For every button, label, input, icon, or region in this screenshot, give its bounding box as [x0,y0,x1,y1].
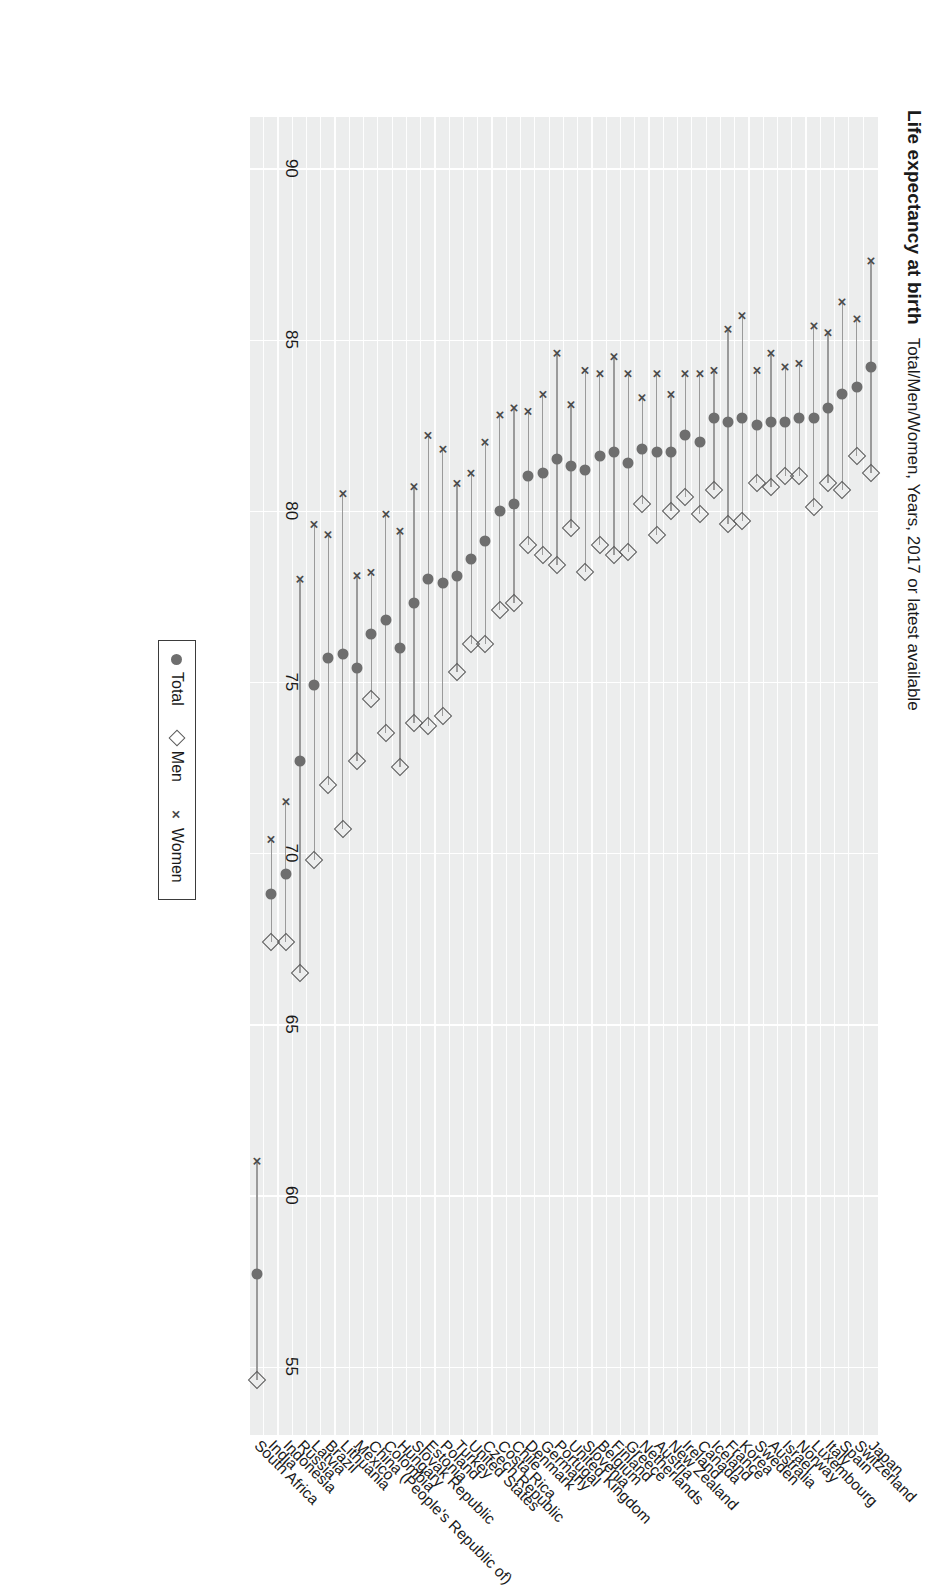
data-point-women[interactable]: × [308,518,321,531]
data-point-total[interactable] [509,498,520,509]
data-point-women[interactable]: × [408,480,421,493]
data-point-total[interactable] [537,468,548,479]
row-separator [349,117,350,1435]
gridline [250,682,878,683]
data-point-women[interactable]: × [293,573,306,586]
data-point-total[interactable] [680,430,691,441]
data-point-women[interactable]: × [565,398,578,411]
data-point-women[interactable]: × [607,350,620,363]
data-point-total[interactable] [666,447,677,458]
data-point-total[interactable] [623,457,634,468]
data-point-women[interactable]: × [593,367,606,380]
data-point-women[interactable]: × [251,1155,264,1168]
data-point-women[interactable]: × [465,467,478,480]
legend-item-women[interactable]: × Women [168,808,186,883]
data-point-women[interactable]: × [650,367,663,380]
data-point-women[interactable]: × [764,347,777,360]
data-point-total[interactable] [566,461,577,472]
data-point-women[interactable]: × [279,795,292,808]
data-point-women[interactable]: × [636,391,649,404]
data-point-women[interactable]: × [379,508,392,521]
data-point-total[interactable] [437,577,448,588]
data-point-total[interactable] [594,450,605,461]
data-point-women[interactable]: × [864,254,877,267]
data-point-women[interactable]: × [536,388,549,401]
axis-tick-label: 85 [281,330,301,349]
data-point-women[interactable]: × [679,367,692,380]
data-point-total[interactable] [480,536,491,547]
data-point-total[interactable] [694,437,705,448]
data-point-women[interactable]: × [665,388,678,401]
data-point-total[interactable] [337,649,348,660]
data-point-women[interactable]: × [522,405,535,418]
data-point-total[interactable] [751,420,762,431]
data-point-women[interactable]: × [322,528,335,541]
gridline [250,168,878,169]
data-point-women[interactable]: × [265,833,278,846]
data-point-total[interactable] [352,663,363,674]
data-point-total[interactable] [651,447,662,458]
data-point-women[interactable]: × [850,312,863,325]
data-point-total[interactable] [294,755,305,766]
data-point-women[interactable]: × [750,364,763,377]
data-point-women[interactable]: × [493,408,506,421]
data-point-women[interactable]: × [351,569,364,582]
data-point-women[interactable]: × [622,367,635,380]
data-point-total[interactable] [252,1269,263,1280]
data-point-total[interactable] [551,454,562,465]
data-point-total[interactable] [580,464,591,475]
data-point-total[interactable] [323,652,334,663]
data-point-women[interactable]: × [836,295,849,308]
data-point-women[interactable]: × [479,436,492,449]
axis-tick-label: 90 [281,159,301,178]
data-point-total[interactable] [794,413,805,424]
data-point-women[interactable]: × [508,401,521,414]
data-point-women[interactable]: × [422,429,435,442]
data-point-total[interactable] [837,389,848,400]
data-point-women[interactable]: × [793,357,806,370]
legend-item-total[interactable]: Total [168,654,186,706]
data-point-total[interactable] [423,574,434,585]
data-point-men[interactable] [862,464,880,482]
data-point-total[interactable] [309,680,320,691]
data-point-total[interactable] [708,413,719,424]
data-point-total[interactable] [280,868,291,879]
data-point-total[interactable] [366,628,377,639]
data-point-total[interactable] [266,889,277,900]
data-point-total[interactable] [380,615,391,626]
data-point-women[interactable]: × [722,323,735,336]
data-point-women[interactable]: × [365,566,378,579]
data-point-total[interactable] [451,570,462,581]
data-point-women[interactable]: × [822,326,835,339]
data-point-total[interactable] [823,402,834,413]
data-point-women[interactable]: × [450,477,463,490]
gridline [250,1367,878,1368]
data-point-total[interactable] [808,413,819,424]
data-point-total[interactable] [523,471,534,482]
data-point-total[interactable] [865,361,876,372]
data-point-women[interactable]: × [707,364,720,377]
data-point-women[interactable]: × [436,443,449,456]
data-point-total[interactable] [737,413,748,424]
data-point-total[interactable] [466,553,477,564]
legend-item-men[interactable]: Men [168,732,186,782]
data-point-total[interactable] [394,642,405,653]
data-point-total[interactable] [637,444,648,455]
data-point-women[interactable]: × [336,487,349,500]
data-point-total[interactable] [494,505,505,516]
data-point-total[interactable] [723,416,734,427]
data-point-total[interactable] [608,447,619,458]
data-point-total[interactable] [780,416,791,427]
data-point-women[interactable]: × [579,364,592,377]
row-separator [377,117,378,1435]
data-point-women[interactable]: × [393,525,406,538]
data-point-women[interactable]: × [779,360,792,373]
data-point-women[interactable]: × [736,309,749,322]
data-point-total[interactable] [765,416,776,427]
row-separator [706,117,707,1435]
data-point-women[interactable]: × [807,319,820,332]
data-point-total[interactable] [851,382,862,393]
data-point-women[interactable]: × [693,367,706,380]
data-point-total[interactable] [409,598,420,609]
data-point-women[interactable]: × [550,347,563,360]
